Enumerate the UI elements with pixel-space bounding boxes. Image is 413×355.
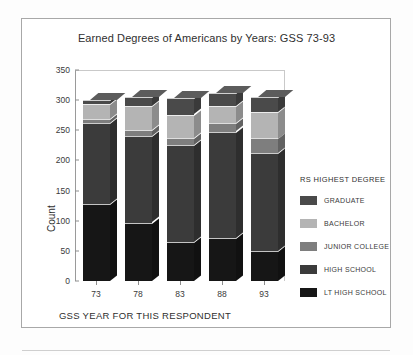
bar-segment-side (278, 107, 285, 138)
x-tick-mark (222, 281, 223, 285)
legend-swatch (300, 265, 317, 274)
y-tick-mark (75, 190, 79, 191)
bar-segment-side (278, 149, 285, 252)
legend: RS HIGHEST DEGREE GRADUATEBACHELORJUNIOR… (300, 175, 404, 310)
legend-title: RS HIGHEST DEGREE (300, 175, 404, 184)
y-tick-label: 50 (61, 246, 70, 256)
bar-segment-side (110, 200, 117, 281)
legend-label: BACHELOR (324, 220, 365, 227)
bar-segment-side (236, 127, 243, 238)
y-tick-mark (75, 100, 79, 101)
legend-label: JUNIOR COLLEGE (324, 243, 389, 250)
y-tick-mark (75, 220, 79, 221)
stacked-bar[interactable] (125, 97, 152, 281)
bar-segment[interactable] (167, 138, 194, 145)
y-tick-label: 200 (56, 155, 70, 165)
bar-segment[interactable] (209, 132, 236, 238)
x-tick-mark (264, 281, 265, 285)
bar-segment[interactable] (125, 136, 152, 222)
y-tick-label: 150 (56, 186, 70, 196)
legend-swatch (300, 219, 317, 228)
bar-segment[interactable] (125, 223, 152, 281)
bar-segment[interactable] (251, 112, 278, 139)
stacked-bar[interactable] (251, 97, 278, 281)
x-tick-mark (96, 281, 97, 285)
bar-segment-side (194, 110, 201, 137)
stacked-bar[interactable] (209, 93, 236, 281)
x-tick-label: 83 (175, 289, 184, 299)
bar-segment[interactable] (167, 242, 194, 281)
y-tick-mark (75, 130, 79, 131)
bar-segment-side (194, 140, 201, 242)
stacked-bar[interactable] (167, 98, 194, 281)
bar-segment[interactable] (209, 93, 236, 106)
legend-swatch (300, 242, 317, 251)
y-tick-label: 100 (56, 216, 70, 226)
x-tick-mark (138, 281, 139, 285)
bar-segment[interactable] (209, 238, 236, 281)
legend-item[interactable]: LT HIGH SCHOOL (300, 287, 404, 298)
legend-rows: GRADUATEBACHELORJUNIOR COLLEGEHIGH SCHOO… (300, 195, 404, 298)
legend-swatch (300, 196, 317, 205)
bar-segment-side (110, 119, 117, 205)
bar-segment[interactable] (83, 119, 110, 123)
y-tick-label: 350 (56, 65, 70, 75)
bar-segment-side (152, 218, 159, 281)
x-axis-label: GSS YEAR FOR THIS RESPONDENT (0, 310, 290, 321)
x-tick-label: 78 (133, 289, 142, 299)
x-tick-label: 93 (259, 289, 268, 299)
y-tick-mark (75, 70, 79, 71)
stacked-bar[interactable] (83, 100, 110, 281)
y-tick-mark (75, 160, 79, 161)
bar-segment[interactable] (83, 123, 110, 204)
x-tick-mark (180, 281, 181, 285)
bar-segment[interactable] (125, 97, 152, 106)
bar-segment[interactable] (125, 106, 152, 130)
legend-item[interactable]: BACHELOR (300, 218, 404, 229)
bar-segment[interactable] (209, 106, 236, 123)
bar-segment[interactable] (251, 97, 278, 112)
bar-segment[interactable] (167, 98, 194, 114)
y-tick-label: 0 (65, 276, 70, 286)
legend-swatch (300, 288, 317, 297)
y-tick-mark (75, 250, 79, 251)
bar-segment[interactable] (83, 104, 110, 119)
y-tick-label: 250 (56, 125, 70, 135)
bar-segment[interactable] (209, 123, 236, 131)
bar-segment-side (152, 132, 159, 223)
figure-page: Earned Degrees of Americans by Years: GS… (0, 0, 413, 355)
bar-segment[interactable] (167, 145, 194, 242)
legend-item[interactable]: JUNIOR COLLEGE (300, 241, 404, 252)
bar-segment-side (236, 233, 243, 281)
bar-segment[interactable] (125, 130, 152, 136)
page-rule (22, 350, 390, 351)
plot-area: 050100150200250300350 7378838893 (75, 70, 285, 281)
bar-segment[interactable] (251, 251, 278, 281)
x-tick-label: 88 (217, 289, 226, 299)
bar-segment[interactable] (83, 100, 110, 104)
bar-segment[interactable] (167, 115, 194, 138)
legend-item[interactable]: HIGH SCHOOL (300, 264, 404, 275)
legend-label: GRADUATE (324, 197, 365, 204)
legend-label: LT HIGH SCHOOL (324, 289, 387, 296)
bar-segment[interactable] (83, 204, 110, 281)
legend-item[interactable]: GRADUATE (300, 195, 404, 206)
y-tick-mark (75, 281, 79, 282)
bar-segment-side (194, 237, 201, 281)
y-tick-label: 300 (56, 95, 70, 105)
chart-title: Earned Degrees of Americans by Years: GS… (0, 32, 413, 44)
bar-segment-side (278, 247, 285, 281)
x-tick-label: 73 (91, 289, 100, 299)
legend-label: HIGH SCHOOL (324, 266, 376, 273)
bar-segment[interactable] (251, 138, 278, 153)
bar-segment[interactable] (251, 153, 278, 251)
